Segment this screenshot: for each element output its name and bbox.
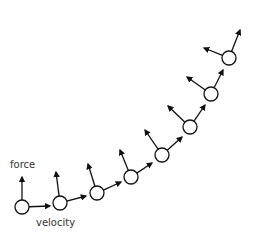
particle-node bbox=[222, 51, 236, 65]
velocity-arrow-icon bbox=[214, 70, 223, 88]
force-arrow-icon bbox=[145, 130, 158, 149]
velocity-arrow-icon bbox=[194, 105, 205, 121]
force-arrow-icon bbox=[56, 172, 59, 196]
velocity-arrow-icon bbox=[232, 30, 240, 51]
velocity-arrow-icon bbox=[167, 137, 182, 150]
particle-node bbox=[183, 120, 197, 134]
particle-nodes bbox=[15, 51, 236, 214]
velocity-arrow-icon bbox=[67, 196, 86, 201]
particle-node bbox=[15, 200, 29, 214]
particle-node bbox=[90, 186, 104, 200]
force-arrow-icon bbox=[88, 164, 95, 186]
particle-node bbox=[155, 148, 169, 162]
velocity-arrow-icon bbox=[137, 163, 152, 173]
force-arrow-icon bbox=[168, 106, 185, 122]
particle-node bbox=[124, 170, 138, 184]
force-arrow-icon bbox=[120, 150, 128, 171]
force-arrow-icon bbox=[204, 48, 223, 55]
force-label: force bbox=[10, 159, 35, 170]
particle-trajectory-diagram: force velocity bbox=[0, 0, 254, 241]
velocity-arrow-icon bbox=[29, 206, 50, 207]
particle-node bbox=[53, 196, 67, 210]
velocity-label: velocity bbox=[36, 217, 75, 228]
force-arrow-icon bbox=[187, 77, 205, 90]
velocity-arrow-icon bbox=[103, 182, 121, 190]
particle-node bbox=[204, 87, 218, 101]
